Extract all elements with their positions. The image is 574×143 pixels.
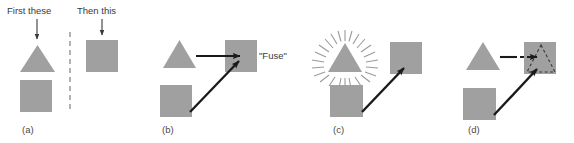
panel-b: "Fuse" (b) xyxy=(160,40,287,135)
panel-c-source-square xyxy=(330,85,363,117)
panel-a-target-square xyxy=(86,40,118,72)
panel-d-source-triangle xyxy=(466,42,500,70)
panel-c-target-square xyxy=(390,42,422,74)
panel-a-source-square xyxy=(20,80,52,112)
panel-c: (c) xyxy=(312,30,422,135)
figure-canvas: First these Then this (a) "Fuse" (b) xyxy=(0,0,574,143)
panel-c-caption: (c) xyxy=(333,124,344,135)
panel-b-caption: (b) xyxy=(162,124,174,135)
panel-a-caption: (a) xyxy=(22,124,34,135)
panel-c-square-to-target-arrow xyxy=(362,68,404,112)
panel-a: First these Then this (a) xyxy=(7,5,118,135)
panel-b-source-triangle xyxy=(163,40,196,68)
then-this-label: Then this xyxy=(77,5,116,16)
panel-d-source-square xyxy=(463,88,496,120)
panel-d: (d) xyxy=(463,42,556,135)
fuse-label: "Fuse" xyxy=(259,50,287,61)
first-these-label: First these xyxy=(7,5,51,16)
panel-a-source-triangle xyxy=(20,45,55,72)
panel-b-source-square xyxy=(160,85,192,117)
conceptual-fusion-figure: First these Then this (a) "Fuse" (b) xyxy=(0,0,574,143)
panel-d-square-to-target-arrow xyxy=(494,69,537,115)
panel-d-caption: (d) xyxy=(468,124,480,135)
panel-b-square-to-target-arrow xyxy=(190,61,239,112)
